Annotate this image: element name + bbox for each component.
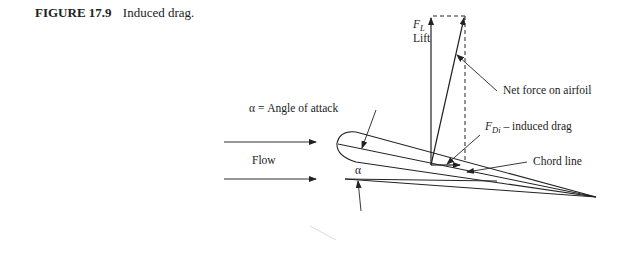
angle-of-attack-label: α = Angle of attack [249, 102, 338, 114]
net-force-vector [431, 18, 464, 165]
flow-label: Flow [252, 154, 276, 166]
scan-artifact [310, 226, 336, 240]
chord-line [338, 144, 596, 197]
induced-drag-leader [447, 135, 480, 164]
induced-drag-label: FDi – induced drag [485, 120, 572, 132]
net-force-leader [457, 55, 497, 91]
angle-pointer-upper [362, 110, 376, 148]
alpha-label: α [355, 164, 361, 176]
angle-pointer-lower [358, 181, 361, 211]
lift-label: FL Lift [413, 18, 430, 45]
chord-line-label: Chord line [533, 155, 582, 167]
net-force-label: Net force on airfoil [503, 84, 591, 96]
horizontal-reference-line [345, 179, 596, 197]
